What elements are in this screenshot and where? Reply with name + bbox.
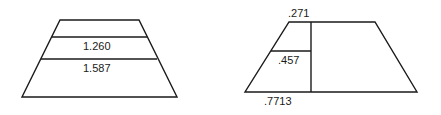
label-7713: .7713 [264, 95, 292, 107]
right-trapezoid [245, 22, 417, 92]
left-trapezoid [22, 20, 177, 97]
diagram-canvas [0, 0, 441, 115]
label-1587: 1.587 [83, 62, 111, 74]
label-1260: 1.260 [83, 40, 111, 52]
label-271: .271 [288, 7, 309, 19]
label-457: .457 [278, 54, 299, 66]
right-trapezoid-outline [245, 22, 417, 92]
